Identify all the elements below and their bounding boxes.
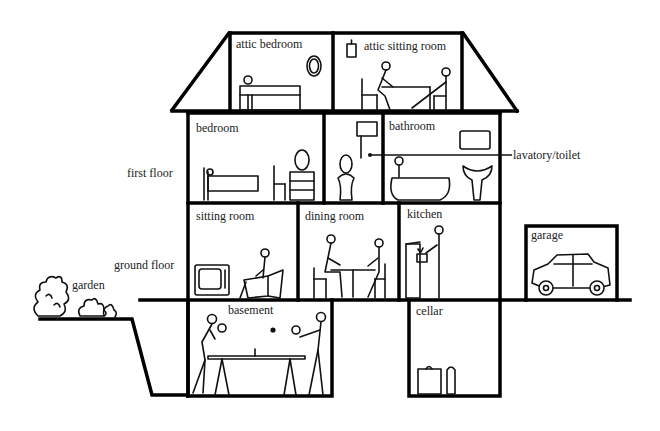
dining-table-people-icon xyxy=(314,235,385,298)
television-icon xyxy=(195,265,229,295)
attic-bed-icon xyxy=(240,76,300,110)
house-diagram: attic bedroom attic sitting room bedroom… xyxy=(0,0,660,431)
label-basement: basement xyxy=(228,304,273,316)
person-armchair-icon xyxy=(240,249,283,298)
toilet-icon xyxy=(338,122,377,200)
roof xyxy=(172,33,517,111)
garden-ground xyxy=(40,319,188,395)
label-kitchen: kitchen xyxy=(407,208,442,220)
lamp-icon xyxy=(347,40,356,57)
chair-icon xyxy=(274,166,285,200)
label-attic-bedroom: attic bedroom xyxy=(236,38,302,50)
label-bedroom: bedroom xyxy=(196,122,239,134)
label-first-floor: first floor xyxy=(127,167,173,179)
cellar-boxes-icon xyxy=(418,367,455,395)
dressing-table-icon xyxy=(290,150,314,200)
label-attic-sitting-room: attic sitting room xyxy=(364,40,446,52)
bathtub-icon xyxy=(391,157,450,200)
cooker-person-icon xyxy=(406,226,443,298)
bed-icon xyxy=(204,168,258,200)
table-tennis-icon xyxy=(193,313,326,396)
shrub-icon xyxy=(79,299,117,317)
mirror-icon xyxy=(307,56,321,76)
bush-icon xyxy=(34,277,69,316)
label-lavatory: lavatory/toilet xyxy=(513,149,580,161)
sink-icon xyxy=(463,166,492,200)
car-icon xyxy=(532,254,610,295)
attic-people-table-icon xyxy=(362,62,450,110)
label-ground-floor: ground floor xyxy=(114,259,174,271)
bathroom-mirror-icon xyxy=(460,131,490,149)
label-garden: garden xyxy=(72,279,105,291)
label-bathroom: bathroom xyxy=(389,120,435,132)
label-dining-room: dining room xyxy=(305,210,364,222)
label-sitting-room: sitting room xyxy=(196,210,254,222)
label-garage: garage xyxy=(531,229,563,241)
label-cellar: cellar xyxy=(416,305,443,317)
